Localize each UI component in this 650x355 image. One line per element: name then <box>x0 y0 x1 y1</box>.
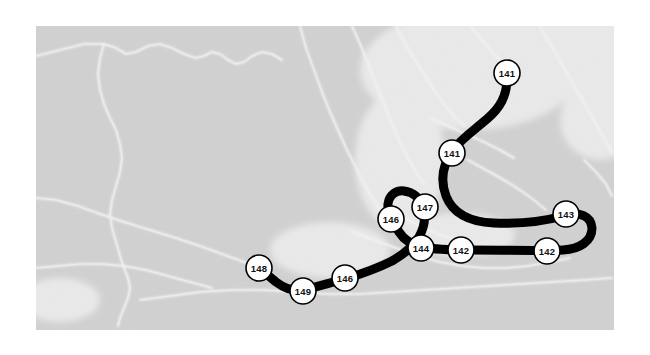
marker-142-a[interactable]: 142 <box>534 238 560 264</box>
marker-146-b[interactable]: 146 <box>332 265 358 291</box>
map-canvas: 141141143142142144147146146149148 <box>0 0 650 355</box>
marker-146-a[interactable]: 146 <box>378 206 404 232</box>
marker-circle[interactable] <box>378 206 404 232</box>
marker-circle[interactable] <box>246 255 272 281</box>
marker-141-b[interactable]: 141 <box>439 140 465 166</box>
marker-142-b[interactable]: 142 <box>448 237 474 263</box>
marker-148[interactable]: 148 <box>246 255 272 281</box>
marker-141-a[interactable]: 141 <box>494 60 520 86</box>
marker-circle[interactable] <box>494 60 520 86</box>
marker-circle[interactable] <box>408 235 434 261</box>
marker-143[interactable]: 143 <box>553 201 579 227</box>
marker-circle[interactable] <box>448 237 474 263</box>
marker-circle[interactable] <box>534 238 560 264</box>
marker-circle[interactable] <box>553 201 579 227</box>
marker-149[interactable]: 149 <box>290 278 316 304</box>
marker-circle[interactable] <box>290 278 316 304</box>
track-map-figure: 141141143142142144147146146149148 <box>0 0 650 355</box>
marker-144[interactable]: 144 <box>408 235 434 261</box>
marker-circle[interactable] <box>412 194 438 220</box>
marker-circle[interactable] <box>439 140 465 166</box>
marker-circle[interactable] <box>332 265 358 291</box>
marker-147[interactable]: 147 <box>412 194 438 220</box>
